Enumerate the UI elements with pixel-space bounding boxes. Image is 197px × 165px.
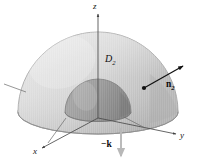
y-axis-label: y bbox=[180, 131, 184, 140]
region-label-d2: D2 bbox=[105, 54, 115, 67]
region-label-subscript: 2 bbox=[112, 59, 115, 66]
down-vector-label-minus-k: −k bbox=[101, 140, 112, 150]
down-vector-label-text: −k bbox=[101, 139, 112, 149]
x-axis-label: x bbox=[33, 147, 37, 156]
figure-canvas: z y x D2 n2 −k bbox=[0, 0, 197, 165]
normal-vector-label-n2: n2 bbox=[166, 80, 175, 91]
z-axis-label: z bbox=[93, 2, 97, 11]
normal-vector-label-subscript: 2 bbox=[171, 84, 174, 91]
